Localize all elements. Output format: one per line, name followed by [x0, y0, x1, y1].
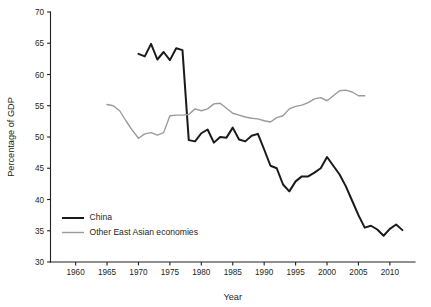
chart-legend: ChinaOther East Asian economies — [62, 212, 198, 237]
y-tick-label: 40 — [35, 196, 45, 205]
y-tick-label: 45 — [35, 164, 45, 173]
y-tick-label: 35 — [35, 227, 45, 236]
legend-label-china: China — [90, 212, 113, 222]
y-tick-label: 30 — [35, 258, 45, 267]
y-tick-label: 50 — [35, 133, 45, 142]
y-tick-label: 65 — [35, 39, 45, 48]
x-tick-label: 2005 — [349, 268, 368, 277]
x-tick-label: 1980 — [192, 268, 211, 277]
y-tick-label: 70 — [35, 8, 45, 17]
x-tick-label: 1975 — [161, 268, 180, 277]
x-tick-label: 1985 — [224, 268, 243, 277]
line-chart-svg: 3035404550556065701960196519701975198019… — [0, 0, 431, 307]
x-tick-label: 2000 — [318, 268, 337, 277]
y-tick-label: 60 — [35, 71, 45, 80]
x-axis-title: Year — [223, 292, 242, 302]
x-tick-label: 1965 — [98, 268, 117, 277]
chart-series — [107, 44, 402, 236]
y-tick-label: 55 — [35, 102, 45, 111]
x-tick-label: 1995 — [286, 268, 305, 277]
x-tick-label: 1990 — [255, 268, 274, 277]
chart-figure: 3035404550556065701960196519701975198019… — [0, 0, 431, 307]
x-tick-label: 1970 — [129, 268, 148, 277]
series-line-china — [138, 44, 402, 236]
x-tick-label: 2010 — [381, 268, 400, 277]
x-tick-label: 1960 — [67, 268, 86, 277]
y-axis-title: Percentage of GDP — [6, 97, 16, 177]
legend-label-other-east-asian-economies: Other East Asian economies — [90, 227, 198, 237]
series-line-other-east-asian-economies — [107, 90, 365, 138]
chart-axes — [51, 12, 416, 262]
